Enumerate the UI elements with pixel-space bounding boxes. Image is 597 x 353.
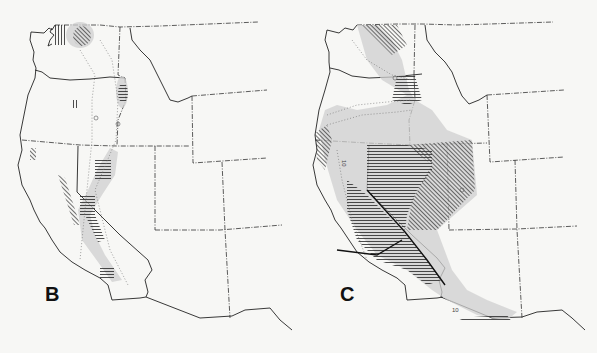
puget-sound: [48, 28, 54, 46]
id-mt-border: [425, 25, 487, 104]
hatch-wa-diagonal: [73, 26, 91, 46]
hatch-tahoe: [80, 195, 95, 215]
hatch-socal: [100, 268, 114, 280]
map-panel-c: 10 10 C: [297, 0, 597, 353]
hatch-ca-north: [30, 148, 36, 160]
hatch-nv-west: [95, 158, 111, 180]
hatch-or-central: [73, 100, 78, 108]
panel-label-b: B: [45, 283, 59, 306]
annotation-10-south: 10: [452, 307, 459, 313]
map-panel-b: B: [0, 0, 300, 353]
ut-az-border: [449, 226, 577, 230]
wa-id-border: [118, 27, 125, 78]
co-border: [515, 160, 522, 318]
or-ca-border: [22, 140, 190, 146]
annotation-10-north: 10: [341, 160, 347, 167]
wa-id-border: [414, 25, 415, 74]
id-mt-border: [130, 28, 192, 102]
panel-label-c: C: [340, 283, 354, 306]
wa-or-border: [35, 70, 125, 80]
mt-wy-border: [487, 90, 564, 95]
coastline: [18, 25, 146, 300]
ut-az-border: [155, 225, 282, 230]
mt-wy-border: [192, 90, 267, 96]
hatch-coast-range: [58, 175, 80, 225]
mexico-border: [146, 297, 292, 330]
canada-border: [357, 22, 553, 25]
hatch-wa-vertical: [55, 25, 65, 45]
figure: B: [0, 0, 597, 353]
hatch-or-east: [118, 83, 128, 103]
wy-border: [192, 96, 267, 163]
marker-circle: [94, 116, 98, 120]
wy-border: [487, 95, 564, 162]
co-border: [222, 162, 230, 318]
